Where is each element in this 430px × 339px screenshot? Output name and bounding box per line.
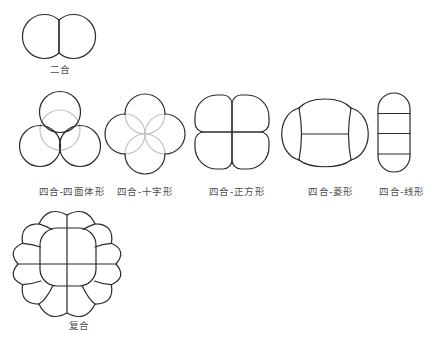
bottom-left-cell-shape bbox=[195, 132, 232, 169]
radial-wall bbox=[23, 243, 41, 247]
left-cell-arc bbox=[105, 114, 125, 154]
top-right-cell-shape bbox=[232, 95, 269, 132]
diagram-canvas bbox=[0, 0, 430, 339]
right-cell-shape bbox=[59, 15, 96, 59]
label-four-square: 四合-正方形 bbox=[209, 186, 265, 198]
compound-figure bbox=[13, 211, 121, 316]
left-inner-wall bbox=[299, 108, 302, 160]
cross-figure bbox=[105, 94, 185, 174]
radial-wall bbox=[39, 224, 52, 230]
radial-wall bbox=[95, 281, 112, 285]
radial-wall bbox=[39, 286, 53, 305]
linear-figure bbox=[378, 93, 410, 172]
left-cell-shape bbox=[22, 15, 59, 59]
label-four-cross: 四合-十字形 bbox=[117, 186, 173, 198]
two-cell-figure bbox=[22, 15, 95, 59]
right-inner-wall bbox=[349, 108, 352, 160]
bottom-cell-arc bbox=[125, 154, 165, 174]
right-cell-arc bbox=[165, 114, 185, 154]
bottom-right-cell-shape bbox=[232, 132, 269, 169]
left-outer-arc bbox=[282, 108, 299, 160]
label-two-cell: 二合 bbox=[50, 64, 71, 76]
tetrahedron-figure bbox=[20, 92, 101, 167]
top-left-cell-shape bbox=[195, 95, 232, 132]
radial-wall bbox=[83, 224, 95, 230]
rhombus-figure bbox=[282, 99, 369, 167]
cell-arrangement-diagram: 二合 四合-四面体形 四合-十字形 四合-正方形 四合-菱形 四合-线形 复合 bbox=[0, 0, 430, 339]
top-cell-arc bbox=[125, 94, 165, 114]
square-figure bbox=[195, 95, 269, 169]
right-outer-arc bbox=[351, 108, 368, 160]
radial-wall bbox=[95, 243, 111, 247]
top-outer-arc bbox=[299, 99, 351, 108]
label-four-linear: 四合-线形 bbox=[379, 186, 425, 198]
label-four-rhombus: 四合-菱形 bbox=[308, 186, 354, 198]
inner-square-outline bbox=[40, 228, 96, 286]
bottom-outer-arc bbox=[299, 160, 351, 167]
capsule-outline bbox=[378, 93, 410, 172]
label-four-tetrahedron: 四合-四面体形 bbox=[39, 186, 106, 198]
label-compound: 复合 bbox=[69, 320, 90, 332]
radial-wall bbox=[82, 286, 95, 305]
radial-wall bbox=[23, 281, 41, 285]
